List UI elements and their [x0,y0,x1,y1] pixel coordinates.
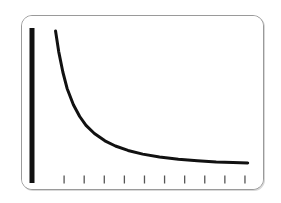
decay-curve-plot [22,16,263,189]
chart-card [21,15,264,190]
figure-root: Decay Curve [0,0,281,203]
